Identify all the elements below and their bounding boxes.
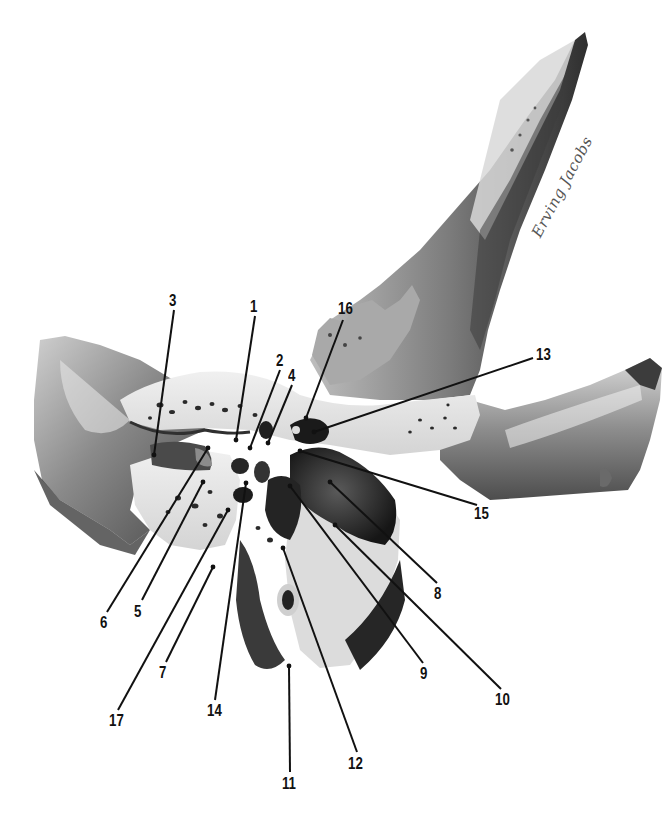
label-3: 3: [169, 292, 176, 309]
leader-line-11: [289, 666, 290, 772]
bone-illustration: [0, 0, 663, 826]
label-16: 16: [338, 300, 353, 317]
label-6: 6: [100, 614, 107, 631]
label-10: 10: [495, 691, 510, 708]
cut-surface: [120, 371, 480, 668]
label-17: 17: [109, 712, 124, 729]
label-9: 9: [420, 665, 427, 682]
label-14: 14: [207, 702, 222, 719]
label-8: 8: [434, 585, 441, 602]
label-7: 7: [159, 664, 166, 681]
label-11: 11: [282, 775, 296, 792]
label-4: 4: [288, 367, 295, 384]
label-13: 13: [536, 346, 551, 363]
label-2: 2: [276, 352, 283, 369]
anatomical-figure: 1 2 3 4 5 6 7 8 9 10 11 12 13 14 15 16 1…: [0, 0, 663, 826]
label-15: 15: [474, 505, 489, 522]
label-1: 1: [250, 298, 257, 315]
label-5: 5: [134, 603, 141, 620]
label-12: 12: [348, 755, 363, 772]
